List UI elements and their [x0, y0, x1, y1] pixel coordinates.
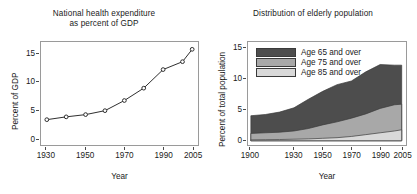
y-tick-mark	[36, 139, 40, 140]
right-plot-area: Age 65 and overAge 75 and overAge 85 and…	[247, 41, 407, 146]
x-tick-mark	[163, 147, 164, 151]
x-tick-mark	[402, 147, 403, 151]
y-tick-label: 0	[9, 135, 35, 144]
left-data-point-marker	[181, 60, 185, 64]
panel-elderly-population-distribution: Distribution of elderly population Perce…	[209, 0, 417, 194]
y-tick-mark	[36, 81, 40, 82]
left-data-point-marker	[103, 109, 107, 113]
legend-item: Age 65 and over	[256, 48, 361, 57]
x-tick-mark	[351, 147, 352, 151]
left-line-path	[47, 49, 192, 119]
x-tick-mark	[380, 147, 381, 151]
x-tick-label: 1950	[68, 151, 102, 160]
y-tick-label: 15	[9, 49, 35, 58]
x-tick-mark	[293, 147, 294, 151]
left-data-point-marker	[84, 113, 88, 117]
left-data-point-marker	[190, 47, 194, 51]
legend-item-label: Age 85 and over	[301, 68, 361, 77]
left-plot-area	[40, 41, 199, 146]
x-tick-label: 1900	[233, 151, 267, 160]
x-tick-mark	[124, 147, 125, 151]
y-tick-label: 5	[9, 106, 35, 115]
right-y-axis-label: Percent of total population	[218, 52, 227, 147]
right-chart-legend: Age 65 and overAge 75 and overAge 85 and…	[256, 48, 361, 77]
left-chart-title: National health expenditure as percent o…	[0, 9, 208, 29]
y-tick-mark	[243, 140, 247, 141]
right-chart-title: Distribution of elderly population	[209, 9, 417, 19]
y-tick-label: 10	[9, 77, 35, 86]
y-tick-mark	[243, 47, 247, 48]
legend-item: Age 75 and over	[256, 58, 361, 67]
y-tick-mark	[243, 109, 247, 110]
right-x-axis-label: Year	[247, 172, 407, 181]
legend-swatch-icon	[256, 48, 296, 57]
panel-national-health-expenditure: National health expenditure as percent o…	[0, 0, 208, 194]
left-data-point-marker	[122, 99, 126, 103]
x-tick-mark	[193, 147, 194, 151]
right-chart-title-line1: Distribution of elderly population	[209, 9, 417, 19]
left-x-axis-label: Year	[40, 172, 199, 181]
figure-two-panel-charts: National health expenditure as percent o…	[0, 0, 417, 194]
left-data-point-marker	[161, 68, 165, 72]
left-chart-title-line2: as percent of GDP	[0, 19, 208, 29]
x-tick-mark	[249, 147, 250, 151]
x-tick-mark	[45, 147, 46, 151]
legend-item: Age 85 and over	[256, 68, 361, 77]
x-tick-mark	[85, 147, 86, 151]
x-tick-label: 2005	[176, 151, 210, 160]
left-line-series	[41, 42, 198, 145]
y-tick-mark	[243, 78, 247, 79]
left-data-point-marker	[45, 118, 49, 122]
y-tick-label: 0	[216, 136, 242, 145]
left-chart-title-line1: National health expenditure	[0, 9, 208, 19]
x-tick-label: 1930	[29, 151, 63, 160]
y-tick-mark	[36, 53, 40, 54]
x-tick-mark	[322, 147, 323, 151]
y-tick-label: 5	[216, 105, 242, 114]
left-data-point-marker	[142, 86, 146, 90]
y-tick-label: 10	[216, 74, 242, 83]
y-tick-mark	[36, 110, 40, 111]
left-data-point-marker	[64, 115, 68, 119]
y-tick-label: 15	[216, 43, 242, 52]
x-tick-label: 2005	[386, 151, 417, 160]
legend-item-label: Age 75 and over	[301, 58, 361, 67]
legend-swatch-icon	[256, 58, 296, 67]
legend-swatch-icon	[256, 68, 296, 77]
x-tick-label: 1970	[107, 151, 141, 160]
legend-item-label: Age 65 and over	[301, 48, 361, 57]
